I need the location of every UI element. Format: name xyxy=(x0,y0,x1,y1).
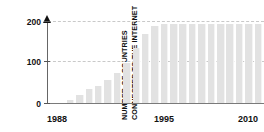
bar xyxy=(161,24,169,103)
bar xyxy=(142,34,150,103)
x-axis-line xyxy=(47,103,264,104)
bar xyxy=(198,24,206,103)
x-tick-label-1995: 1995 xyxy=(154,114,174,124)
bar xyxy=(170,24,178,103)
x-tick-label-2010: 2010 xyxy=(238,114,258,124)
x-tick-label-1988: 1988 xyxy=(47,114,67,124)
y-tick-mark-200 xyxy=(44,21,50,22)
bar xyxy=(104,80,112,103)
bar xyxy=(208,24,216,103)
bar xyxy=(86,89,94,103)
bar xyxy=(114,73,122,103)
bar-series xyxy=(48,18,264,103)
bar xyxy=(255,24,263,103)
bar xyxy=(217,24,225,103)
y-tick-mark-0 xyxy=(44,103,50,104)
bar xyxy=(189,24,197,103)
bar xyxy=(245,24,253,103)
y-tick-label-0: 0 xyxy=(13,99,41,109)
chart-figure: NUMBER OF COUNTRIES CONNECTED TO THE INT… xyxy=(0,0,264,132)
bar xyxy=(133,48,141,103)
bar xyxy=(236,24,244,103)
bar xyxy=(95,86,103,103)
bar xyxy=(151,26,159,103)
bar xyxy=(123,63,131,103)
y-tick-mark-100 xyxy=(44,61,50,62)
bar xyxy=(76,95,84,103)
y-tick-label-200: 200 xyxy=(13,17,41,27)
y-tick-label-100: 100 xyxy=(13,57,41,67)
bar xyxy=(226,24,234,103)
bar xyxy=(179,24,187,103)
